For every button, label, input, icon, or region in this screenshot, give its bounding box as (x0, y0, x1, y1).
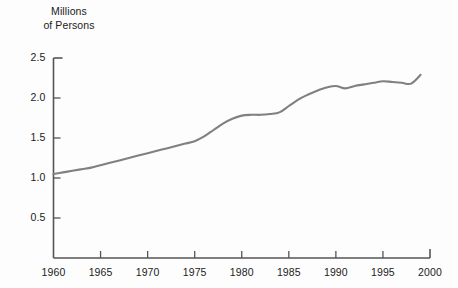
x-tick-label: 2000 (410, 266, 450, 278)
y-tick-label: 1.0 (12, 171, 46, 183)
y-tick-label: 1.5 (12, 131, 46, 143)
x-tick-label: 1995 (363, 266, 403, 278)
x-tick-label: 1990 (316, 266, 356, 278)
x-tick-label: 1985 (269, 266, 309, 278)
data-series-line (54, 75, 421, 174)
y-tick-label: 2.5 (12, 51, 46, 63)
x-tick-label: 1970 (128, 266, 168, 278)
plot-area (0, 0, 458, 288)
y-tick-label: 2.0 (12, 91, 46, 103)
x-tick-label: 1965 (81, 266, 121, 278)
x-tick-label: 1975 (175, 266, 215, 278)
tick-marks (54, 98, 383, 258)
x-tick-label: 1980 (222, 266, 262, 278)
x-tick-label: 1960 (34, 266, 74, 278)
axis-lines (54, 58, 431, 258)
y-tick-label: 0.5 (12, 211, 46, 223)
chart-container: Millions of Persons 2.52.01.51.00.5 1960… (0, 0, 458, 288)
